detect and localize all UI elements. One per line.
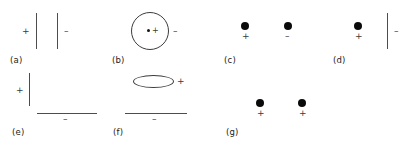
panel-g-right-plus-sign: + [299,109,307,118]
panel-c-right-charge-dot [284,22,292,30]
panel-a-left-plate [36,13,37,49]
panel-a-right-plate [57,13,58,49]
panel-a-plus-sign: + [22,27,30,36]
panel-e: + – (e) [0,70,110,145]
panel-e-vertical-plate [29,73,30,106]
panel-a-minus-sign: – [64,27,69,36]
panel-c-left-charge-dot [241,22,249,30]
panel-d-plus-sign: + [355,32,363,41]
panel-f: + – (f) [100,70,215,145]
panel-f-plus-sign: + [177,77,185,86]
panel-e-plus-sign: + [16,86,24,95]
panel-e-minus-sign: – [63,115,68,124]
panel-e-label: (e) [12,128,24,137]
figure-canvas: + – (a) + – (b) + – (c) + – (d) + – (e) … [0,0,416,145]
panel-g-left-plus-sign: + [257,109,265,118]
panel-c-minus-sign: – [285,32,290,41]
panel-c-label: (c) [224,56,236,65]
panel-f-minus-sign: – [152,115,157,124]
panel-g: + + (g) [215,70,345,145]
panel-d-charge-dot [354,22,362,30]
panel-b-label: (b) [112,56,125,65]
panel-d-label: (d) [333,56,346,65]
panel-f-ellipse [133,75,174,88]
panel-f-label: (f) [113,128,123,137]
panel-g-left-charge-dot [256,99,264,107]
panel-g-label: (g) [226,128,239,137]
panel-b-shell-circle [131,12,169,50]
panel-b-plus-sign: + [152,27,159,35]
panel-a: + – (a) [0,0,100,70]
panel-a-label: (a) [10,56,22,65]
panel-b: + – (b) [100,0,205,70]
panel-c-plus-sign: + [242,32,250,41]
panel-c: + – (c) [205,0,310,70]
panel-d: + – (d) [310,0,416,70]
panel-b-minus-sign: – [173,27,178,36]
panel-d-plate [387,13,388,49]
panel-d-minus-sign: – [394,27,399,36]
panel-g-right-charge-dot [298,99,306,107]
